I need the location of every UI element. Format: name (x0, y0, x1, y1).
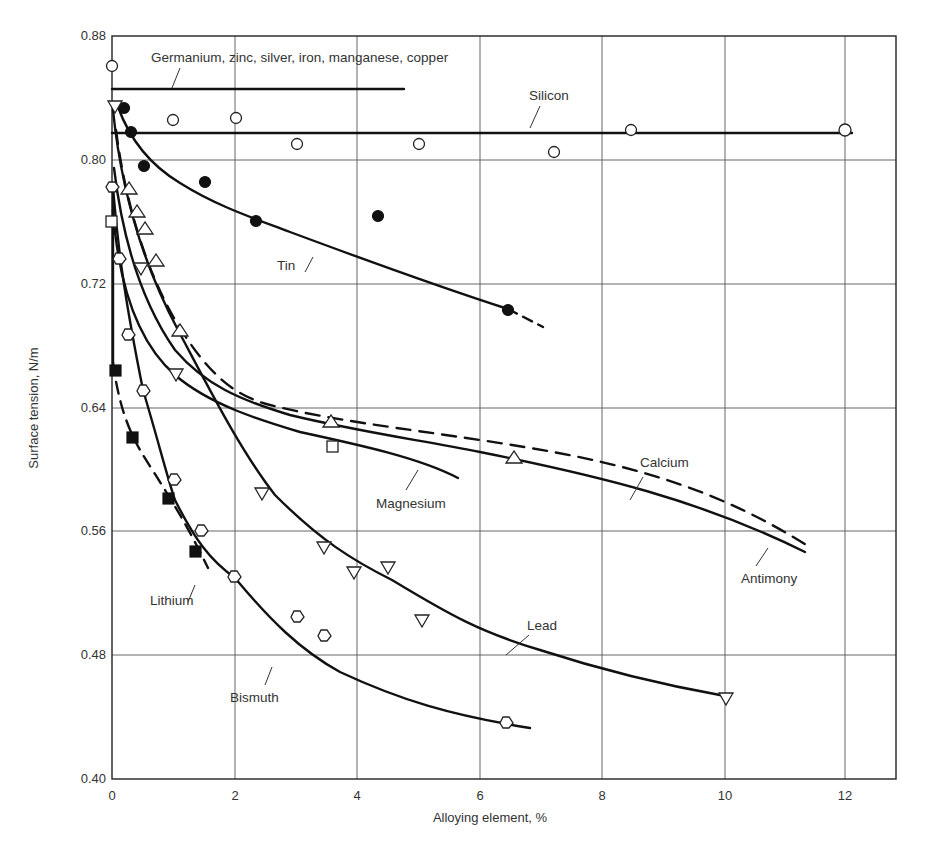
tin-marker (251, 216, 262, 227)
tin-marker (200, 177, 211, 188)
label-tin: Tin (277, 258, 295, 273)
label-leaders (172, 68, 768, 685)
x-tick: 12 (838, 788, 852, 803)
lithium-marker (110, 365, 121, 376)
tin-marker (373, 211, 384, 222)
surface-tension-chart: 0.88 0.80 0.72 0.64 0.56 0.48 0.40 0 2 4… (0, 0, 938, 855)
x-tick: 4 (353, 788, 360, 803)
magnesium-marker (106, 216, 117, 227)
calcium-marker (172, 324, 188, 336)
lead-marker (415, 615, 429, 627)
series-labels: Germanium, zinc, silver, iron, manganese… (150, 50, 798, 705)
tin-marker (503, 305, 514, 316)
tin-marker (126, 127, 137, 138)
y-tick: 0.80 (81, 152, 106, 167)
calcium-marker (323, 415, 339, 427)
calcium-curve (116, 130, 808, 546)
tin-marker (139, 161, 150, 172)
label-antimony: Antimony (741, 571, 798, 586)
bismuth-marker (168, 474, 181, 485)
lead-marker (347, 567, 361, 579)
calcium-marker (148, 254, 164, 266)
silicon-marker (292, 139, 303, 150)
label-silicon: Silicon (529, 88, 569, 103)
bismuth-marker (113, 253, 126, 264)
label-lead: Lead (527, 618, 557, 633)
label-bismuth: Bismuth (230, 690, 279, 705)
tin-curve (118, 107, 508, 309)
x-tick: 6 (476, 788, 483, 803)
lithium-marker (163, 493, 174, 504)
silicon-marker (839, 124, 851, 136)
y-tick: 0.64 (81, 400, 106, 415)
x-tick: 10 (718, 788, 732, 803)
y-tick: 0.56 (81, 523, 106, 538)
label-lithium: Lithium (150, 593, 194, 608)
x-axis-ticks: 0 2 4 6 8 10 12 (108, 788, 852, 803)
silicon-marker (107, 61, 118, 72)
lead-marker (255, 488, 269, 500)
bismuth-marker (318, 630, 331, 641)
y-axis-title: Surface tension, N/m (26, 347, 41, 468)
label-germanium-group: Germanium, zinc, silver, iron, manganese… (151, 50, 449, 65)
y-tick: 0.88 (81, 28, 106, 43)
bismuth-marker (195, 525, 208, 536)
x-tick: 2 (231, 788, 238, 803)
silicon-marker (414, 139, 425, 150)
y-tick: 0.48 (81, 647, 106, 662)
antimony-curve (114, 168, 805, 552)
y-tick: 0.40 (81, 771, 106, 786)
calcium-marker (137, 222, 153, 234)
label-calcium: Calcium (640, 455, 689, 470)
lead-marker (719, 693, 733, 705)
x-tick: 0 (108, 788, 115, 803)
label-magnesium: Magnesium (376, 496, 446, 511)
bismuth-marker (137, 385, 150, 396)
silicon-marker (168, 115, 179, 126)
bismuth-curve (113, 188, 530, 728)
bismuth-marker (228, 571, 241, 582)
x-axis-title: Alloying element, % (433, 810, 548, 825)
curves (112, 89, 852, 728)
lithium-marker (127, 432, 138, 443)
lead-marker (317, 542, 331, 554)
lead-marker (381, 562, 395, 574)
lithium-marker (190, 546, 201, 557)
calcium-marker (121, 182, 137, 194)
bismuth-marker (122, 329, 135, 340)
lithium-curve (113, 362, 208, 568)
silicon-marker (549, 147, 560, 158)
bismuth-marker (500, 717, 513, 728)
magnesium-marker (327, 441, 338, 452)
y-tick: 0.72 (81, 276, 106, 291)
silicon-marker (231, 113, 242, 124)
x-tick: 8 (598, 788, 605, 803)
y-axis-ticks: 0.88 0.80 0.72 0.64 0.56 0.48 0.40 (81, 28, 106, 786)
bismuth-marker (291, 611, 304, 622)
silicon-marker (626, 125, 637, 136)
